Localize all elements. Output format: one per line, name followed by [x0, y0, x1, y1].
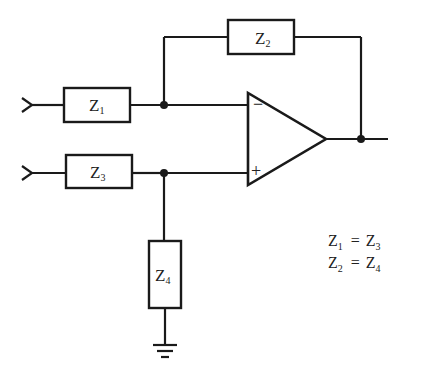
condition-2: Z2=Z4	[328, 255, 381, 277]
condition-1-rhs: Z	[366, 232, 376, 249]
condition-1-lhs: Z	[328, 232, 338, 249]
input-terminal-2	[22, 166, 66, 180]
condition-2-lhs-sub: 2	[338, 263, 343, 274]
noninverting-input-sign: +	[251, 161, 261, 181]
condition-1-op: =	[351, 233, 360, 249]
condition-2-lhs: Z	[328, 254, 338, 271]
input-terminal-1	[22, 98, 64, 112]
ground-icon	[153, 345, 177, 357]
condition-2-rhs: Z	[366, 254, 376, 271]
inverting-input-sign: −	[253, 94, 263, 114]
impedance-z2: Z2	[228, 20, 294, 54]
impedance-conditions: Z1=Z3 Z2=Z4	[328, 233, 381, 277]
impedance-z1: Z1	[64, 88, 130, 122]
condition-1-rhs-sub: 3	[376, 241, 381, 252]
condition-2-op: =	[351, 255, 360, 271]
condition-1: Z1=Z3	[328, 233, 381, 255]
op-amp: − +	[248, 93, 326, 185]
impedance-z4: Z4	[149, 241, 181, 308]
junction-node-output	[357, 135, 365, 143]
condition-1-lhs-sub: 1	[338, 241, 343, 252]
impedance-z3: Z3	[66, 155, 132, 188]
condition-2-rhs-sub: 4	[376, 263, 381, 274]
circuit-diagram: Z1 Z3 Z2 − + Z4	[0, 0, 422, 388]
